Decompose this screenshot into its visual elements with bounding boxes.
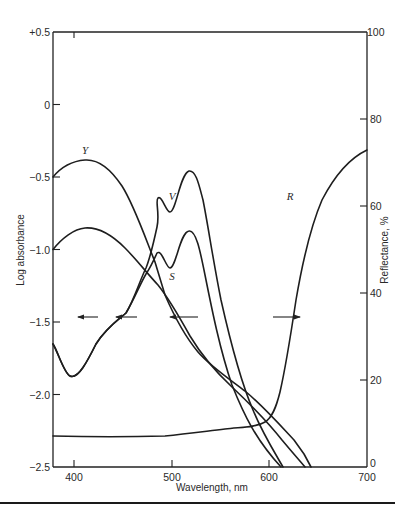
y-tick-label-m20: −2.0 [29,389,50,401]
y-tick-label-m05: −0.5 [29,171,50,183]
curve-r [53,150,367,437]
y-ticks-right: 100 80 60 40 20 0 Reflectance, % [360,26,390,469]
x-tick-label-600: 600 [260,471,278,483]
x-tick-label-400: 400 [65,471,83,483]
y-tick-label-m25: −2.5 [29,461,50,473]
absorbance-reflectance-chart: 400 500 600 700 Wavelength, nm +0.5 0 −0… [0,0,409,518]
r-tick-label-20: 20 [370,374,382,386]
x-ticks: 400 500 600 700 Wavelength, nm [65,460,376,493]
arrow-right-icon [273,315,301,320]
r-tick-label-40: 40 [370,287,382,299]
r-tick-label-80: 80 [370,113,382,125]
x-axis-title: Wavelength, nm [176,482,248,493]
direction-arrows [77,315,301,320]
x-tick-label-700: 700 [358,471,376,483]
y-tick-label-0: 0 [44,99,50,111]
r-tick-label-0: 0 [370,457,376,469]
y-tick-label-p05: +0.5 [29,26,50,38]
y-axis-title-right: Reflectance, % [379,216,390,283]
curve-label-y: Y [82,144,90,156]
axes [53,32,367,467]
r-tick-label-60: 60 [370,200,382,212]
curves [53,150,367,467]
y-axis-title-left: Log absorbance [15,214,26,286]
r-tick-label-100: 100 [367,26,385,38]
arrow-left-3-icon [169,315,198,320]
curve-y [53,160,311,467]
curve-label-s: S [169,270,175,282]
curve-s [53,231,281,467]
arrow-left-1-icon [77,315,98,320]
curve-broad-band [53,228,305,467]
y-tick-label-m10: −1.0 [29,244,50,256]
curve-label-r: R [286,190,294,202]
y-tick-label-m15: −1.5 [29,316,50,328]
